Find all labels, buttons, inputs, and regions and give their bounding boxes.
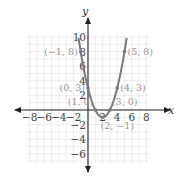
data-point <box>123 50 127 54</box>
y-tick-label: −2 <box>71 119 86 131</box>
parabola-graph: −8−6−4−22468108642−2−4−6 (−1, 8)(0, 3)(1… <box>0 0 180 186</box>
point-label: (0, 3) <box>59 82 85 93</box>
data-point <box>101 116 105 120</box>
point-label: (3, 0) <box>112 96 138 107</box>
x-tick-label: −6 <box>36 111 52 123</box>
data-point <box>79 50 83 54</box>
data-point <box>86 86 90 90</box>
point-label: (2, −1) <box>101 120 135 131</box>
data-point <box>108 108 112 112</box>
x-tick-label: 8 <box>143 111 150 123</box>
point-label: (4, 3) <box>120 82 146 93</box>
y-axis-label: y <box>81 5 89 18</box>
point-label: (5, 8) <box>128 46 154 57</box>
x-axis-label: x <box>168 104 175 117</box>
y-tick-label: −6 <box>71 148 87 160</box>
point-label: (−1, 8) <box>44 46 78 57</box>
point-label: (1, 0) <box>68 96 94 107</box>
data-point <box>115 86 119 90</box>
x-tick-label: −8 <box>22 111 37 123</box>
y-tick-label: −4 <box>71 133 87 145</box>
x-tick-label: −4 <box>51 111 67 123</box>
data-point <box>94 108 98 112</box>
axes <box>15 18 170 172</box>
